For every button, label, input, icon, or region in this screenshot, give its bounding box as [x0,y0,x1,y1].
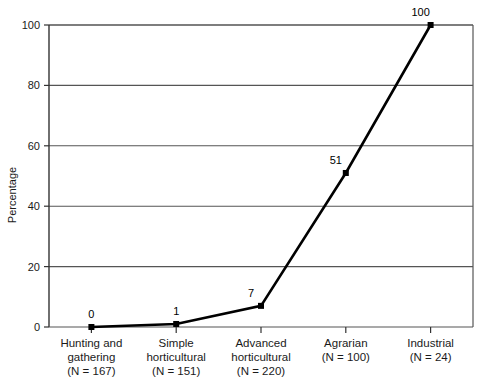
y-tick-label-20: 20 [28,261,40,273]
y-axis-title: Percentage [6,167,18,223]
x-category-label: (N = 167) [67,365,115,377]
x-category-label: Agrarian [324,337,367,349]
y-tick-label-100: 100 [22,19,40,31]
x-category-label: (N = 151) [152,365,200,377]
x-category-label: horticultural [146,351,205,363]
x-category-label: Industrial [407,337,454,349]
data-point-marker [173,321,179,327]
x-category-label: horticultural [231,351,290,363]
x-category-label: Hunting and [60,337,122,349]
data-point-label: 1 [173,305,179,317]
data-point-label: 100 [411,6,429,18]
y-tick-label-0: 0 [34,321,40,333]
data-point-label: 0 [88,308,94,320]
data-point-marker [88,324,94,330]
x-category-label: gathering [67,351,115,363]
data-point-label: 7 [248,287,254,299]
x-category-label: (N = 220) [237,365,285,377]
chart-background [0,0,487,382]
y-tick-label-60: 60 [28,140,40,152]
data-point-label: 51 [330,154,342,166]
x-category-label: (N = 24) [410,351,452,363]
x-category-label: Simple [159,337,194,349]
x-category-label: Advanced [235,337,286,349]
x-category-label: (N = 100) [322,351,370,363]
y-tick-label-40: 40 [28,200,40,212]
y-tick-label-80: 80 [28,79,40,91]
line-chart: 020406080100 01751100 Hunting andgatheri… [0,0,487,382]
data-point-marker [343,170,349,176]
chart-container: 020406080100 01751100 Hunting andgatheri… [0,0,487,382]
data-point-marker [258,303,264,309]
data-point-marker [428,22,434,28]
